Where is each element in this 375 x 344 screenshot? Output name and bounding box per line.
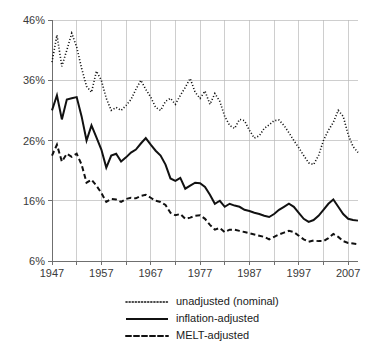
chart-background — [0, 0, 375, 344]
y-tick-label: 6% — [29, 255, 45, 267]
legend-label: inflation-adjusted — [176, 312, 259, 324]
x-tick-label: 2007 — [336, 267, 360, 279]
x-tick-label: 1957 — [89, 267, 113, 279]
y-tick-label: 46% — [23, 14, 45, 26]
legend-label: MELT-adjusted — [176, 329, 249, 341]
line-chart: 6%16%26%36%46% 1947195719671977198719972… — [0, 0, 375, 344]
x-tick-label: 1967 — [138, 267, 162, 279]
chart-figure: 6%16%26%36%46% 1947195719671977198719972… — [0, 0, 375, 344]
legend-label: unadjusted (nominal) — [176, 295, 279, 307]
x-tick-label: 1987 — [237, 267, 261, 279]
y-tick-label: 16% — [23, 195, 45, 207]
x-tick-label: 1997 — [287, 267, 311, 279]
y-tick-label: 26% — [23, 135, 45, 147]
x-tick-label: 1947 — [40, 267, 64, 279]
y-tick-label: 36% — [23, 74, 45, 86]
x-tick-label: 1977 — [188, 267, 212, 279]
